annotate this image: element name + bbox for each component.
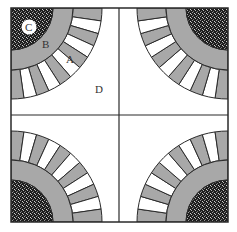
- label-b: B: [42, 38, 49, 50]
- label-c: C: [25, 21, 32, 33]
- quilt-block-diagram: C B A D: [0, 0, 237, 232]
- label-a: A: [66, 53, 74, 65]
- label-d: D: [95, 83, 103, 95]
